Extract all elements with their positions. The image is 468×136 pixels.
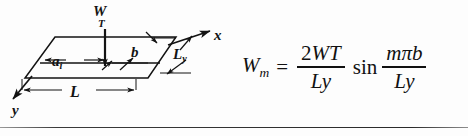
equation-relation: = <box>276 55 288 80</box>
label-load-WT: WT <box>93 4 106 29</box>
diagram-panel: WT ai b L Ly x y <box>0 0 234 136</box>
equation-lhs: Wm <box>242 53 269 81</box>
diagram-vector-layer <box>0 0 234 136</box>
fraction-denominator: Ly <box>390 69 418 93</box>
label-dimension-a-i: ai <box>52 54 62 71</box>
dimension-b <box>102 58 148 70</box>
fraction-bar <box>382 66 426 68</box>
equation-expression: Wm = 2WT Ly sin mπb Ly <box>242 30 468 104</box>
label-axis-y: y <box>12 103 19 118</box>
fraction-denominator: Ly <box>307 69 335 93</box>
equation-panel: Wm = 2WT Ly sin mπb Ly <box>234 0 468 136</box>
page-divider-rule <box>0 127 468 128</box>
label-dimension-L-y: Ly <box>173 47 187 64</box>
label-axis-x: x <box>214 28 222 43</box>
fraction-bar <box>297 66 345 68</box>
fraction-numerator: mπb <box>382 41 426 65</box>
figure-root: WT ai b L Ly x y Wm = 2WT Ly sin mπb Ly <box>0 0 468 136</box>
label-dimension-L: L <box>70 84 80 100</box>
equation-fraction-amplitude: 2WT Ly <box>297 41 345 93</box>
fraction-numerator: 2WT <box>297 41 345 65</box>
equation-sine-function: sin <box>353 55 378 80</box>
plate-outline <box>25 37 176 78</box>
equation-fraction-argument: mπb Ly <box>382 41 426 93</box>
label-dimension-b: b <box>131 45 139 60</box>
